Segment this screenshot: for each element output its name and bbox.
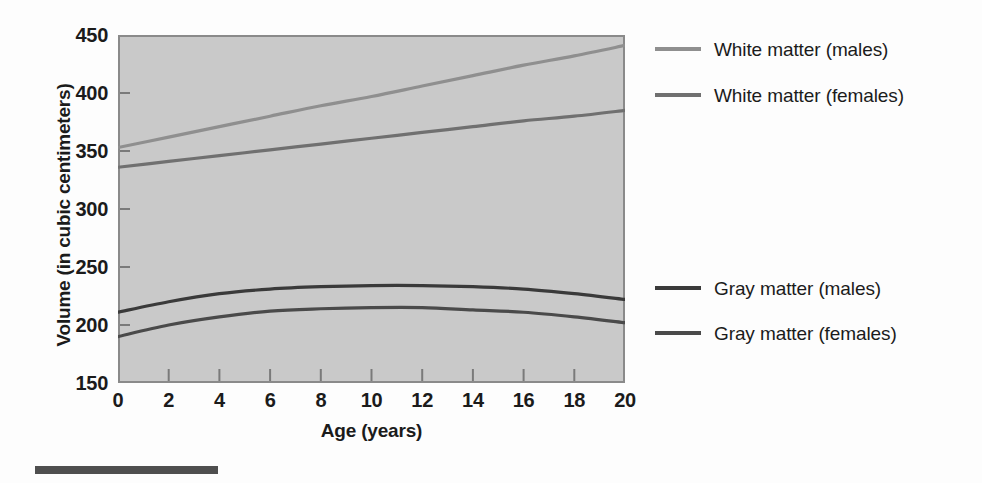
y-axis-tick-labels: 450400350300250200150 xyxy=(44,0,108,483)
x-tick-label: 4 xyxy=(196,390,242,410)
legend-entry[interactable]: Gray matter (females) xyxy=(655,322,897,344)
legend-line-swatch-icon xyxy=(655,47,701,51)
chart-legend: White matter (males)White matter (female… xyxy=(655,0,982,483)
series-line-1 xyxy=(118,110,625,167)
x-tick-label: 8 xyxy=(298,390,344,410)
y-tick-label: 400 xyxy=(52,83,108,103)
x-tick-label: 6 xyxy=(247,390,293,410)
legend-entry[interactable]: White matter (females) xyxy=(655,84,904,106)
x-tick-label: 20 xyxy=(602,390,648,410)
y-tick-label: 250 xyxy=(52,257,108,277)
legend-label: Gray matter (females) xyxy=(714,324,897,343)
legend-label: Gray matter (males) xyxy=(714,279,881,298)
y-tick-label: 200 xyxy=(52,315,108,335)
brain-volume-line-chart: Volume (in cubic centimeters) 4504003503… xyxy=(0,0,982,483)
x-tick-label: 14 xyxy=(450,390,496,410)
x-tick-label: 0 xyxy=(95,390,141,410)
legend-line-swatch-icon xyxy=(655,286,701,290)
x-tick-label: 18 xyxy=(551,390,597,410)
y-tick-label: 300 xyxy=(52,199,108,219)
series-line-3 xyxy=(118,307,625,336)
x-tick-label: 16 xyxy=(501,390,547,410)
x-axis-title: Age (years) xyxy=(118,420,625,442)
legend-entry[interactable]: Gray matter (males) xyxy=(655,277,881,299)
x-tick-label: 12 xyxy=(399,390,445,410)
y-tick-label: 350 xyxy=(52,141,108,161)
x-tick-label: 2 xyxy=(146,390,192,410)
plot-area xyxy=(118,35,625,383)
legend-line-swatch-icon xyxy=(655,331,701,335)
legend-line-swatch-icon xyxy=(655,93,701,97)
y-tick-label: 450 xyxy=(52,25,108,45)
legend-label: White matter (females) xyxy=(714,86,904,105)
x-tick-label: 10 xyxy=(349,390,395,410)
page-footer-rule xyxy=(35,466,218,474)
legend-entry[interactable]: White matter (males) xyxy=(655,38,888,60)
series-line-0 xyxy=(118,45,625,147)
legend-label: White matter (males) xyxy=(714,40,888,59)
x-axis-tick-labels: 02468101214161820 xyxy=(118,390,625,416)
plot-lines xyxy=(118,35,625,383)
